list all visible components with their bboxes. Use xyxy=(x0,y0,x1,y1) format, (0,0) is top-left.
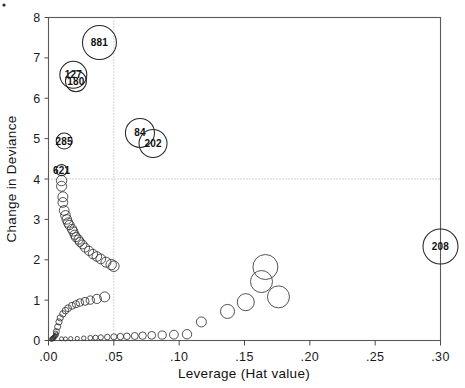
labeled-data-point[interactable]: 881 xyxy=(82,26,116,60)
data-point xyxy=(131,332,138,339)
data-point xyxy=(196,317,206,327)
y-tick-label: 0 xyxy=(33,334,40,348)
data-point-label: 180 xyxy=(67,76,85,87)
data-point xyxy=(76,299,84,307)
corner-mark xyxy=(2,3,5,6)
data-point xyxy=(93,335,98,340)
dense-band-markers xyxy=(49,330,191,342)
data-point xyxy=(88,335,93,340)
y-tick-label: 7 xyxy=(33,51,40,65)
data-point-label: 208 xyxy=(432,241,450,252)
data-point xyxy=(237,294,254,311)
data-point xyxy=(139,332,146,339)
x-tick-label: .15 xyxy=(235,350,254,364)
data-point xyxy=(81,297,89,305)
scatter-chart-svg: 012345678 .00.05.10.15.20.25.30 Leverage… xyxy=(0,0,465,388)
x-tick-label: .25 xyxy=(366,350,385,364)
x-tick-label: .10 xyxy=(170,350,189,364)
x-tick-label: .30 xyxy=(431,350,450,364)
data-point xyxy=(98,335,103,340)
reference-lines xyxy=(49,18,441,341)
data-point xyxy=(58,192,68,202)
y-axis-title: Change in Deviance xyxy=(4,116,19,243)
x-tick-label: .05 xyxy=(105,350,124,364)
data-point xyxy=(221,304,235,318)
labeled-data-point[interactable]: 285 xyxy=(56,133,74,149)
data-point xyxy=(105,334,111,340)
data-point xyxy=(148,331,156,339)
y-tick-label: 6 xyxy=(33,92,40,106)
y-tick-label: 2 xyxy=(33,253,40,267)
labeled-data-point[interactable]: 621 xyxy=(53,165,71,176)
data-point xyxy=(250,271,272,293)
data-point xyxy=(182,330,191,339)
x-tick-label: .20 xyxy=(301,350,320,364)
data-point-label: 202 xyxy=(144,138,162,149)
data-point-label: 621 xyxy=(53,165,71,176)
data-point xyxy=(267,286,289,308)
y-tick-label: 4 xyxy=(33,173,40,187)
y-tick-label: 3 xyxy=(33,213,40,227)
x-axis: .00.05.10.15.20.25.30 xyxy=(39,341,450,364)
data-point xyxy=(57,181,67,191)
data-point xyxy=(56,175,66,185)
data-point-label: 285 xyxy=(56,136,74,147)
data-point xyxy=(82,336,86,340)
data-point xyxy=(117,333,123,339)
x-axis-title: Leverage (Hat value) xyxy=(178,366,310,381)
data-point xyxy=(170,330,179,339)
y-tick-label: 5 xyxy=(33,132,40,146)
data-point xyxy=(86,296,94,304)
data-point-label: 881 xyxy=(91,37,109,48)
labeled-data-point[interactable]: 202 xyxy=(139,129,167,157)
data-point xyxy=(124,333,131,340)
deviance-leverage-plot: 012345678 .00.05.10.15.20.25.30 Leverage… xyxy=(0,0,465,388)
y-axis: 012345678 xyxy=(33,11,48,348)
y-tick-label: 1 xyxy=(33,294,40,308)
data-point xyxy=(253,255,278,280)
data-point xyxy=(158,331,166,339)
y-tick-label: 8 xyxy=(33,11,40,25)
unlabeled-markers xyxy=(53,175,289,334)
x-tick-label: .00 xyxy=(39,350,58,364)
